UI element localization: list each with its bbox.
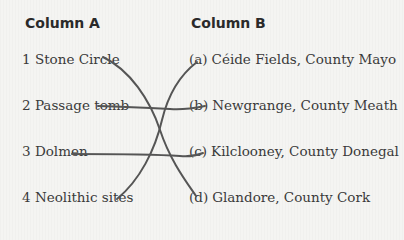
item-letter: (d)	[189, 189, 208, 205]
item-letter: (a)	[189, 51, 208, 67]
column-a-item-3: 3 Dolmen	[22, 143, 88, 159]
item-text: Kilclooney, County Donegal	[211, 143, 399, 159]
column-a-item-4: 4 Neolithic sites	[22, 189, 133, 205]
column-b-item-d: (d)Glandore, County Cork	[189, 189, 370, 205]
item-letter: (c)	[189, 143, 207, 159]
match-line-1-d	[103, 57, 196, 196]
column-a-heading: Column A	[25, 15, 100, 31]
column-b-item-b: (b)Newgrange, County Meath	[189, 97, 398, 113]
item-text: Glandore, County Cork	[212, 189, 370, 205]
match-line-3-c	[72, 153, 203, 156]
column-b-item-a: (a)Céide Fields, County Mayo	[189, 51, 396, 67]
column-b-heading: Column B	[191, 15, 266, 31]
item-text: Newgrange, County Meath	[212, 97, 398, 113]
column-a-item-1: 1 Stone Circle	[22, 51, 120, 67]
column-b-item-c: (c)Kilclooney, County Donegal	[189, 143, 399, 159]
match-line-4-a	[117, 62, 197, 199]
item-letter: (b)	[189, 97, 208, 113]
column-a-item-2: 2 Passage tomb	[22, 97, 129, 113]
item-text: Céide Fields, County Mayo	[212, 51, 397, 67]
